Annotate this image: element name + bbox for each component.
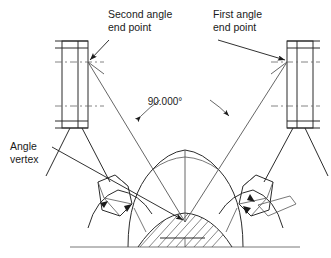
angle-vertex-label-line1: Angle <box>10 140 37 152</box>
angle-leg-left <box>88 62 185 222</box>
section-hatching <box>130 205 250 258</box>
end-point-markers <box>88 62 287 74</box>
second-angle-end-point-leader <box>90 40 109 60</box>
first-angle-end-point-label-line2: end point <box>213 21 256 33</box>
first-angle-end-point-leader <box>218 40 285 60</box>
second-angle-end-point-label-line1: Second angle <box>108 8 172 20</box>
angle-measurement-diagram: 90.000° Second angle end point First ang… <box>0 0 331 258</box>
center-hatched-section <box>130 205 250 258</box>
angle-legs <box>88 62 287 222</box>
angle-arc-right <box>210 100 229 116</box>
angle-vertex-leader <box>52 147 183 220</box>
first-angle-end-point-label-line1: First angle <box>213 8 262 20</box>
angle-dimension: 90.000° <box>141 96 229 116</box>
right-end-point-marker <box>271 62 287 74</box>
diagram-canvas: 90.000° Second angle end point First ang… <box>0 0 331 258</box>
angle-vertex-label-line2: vertex <box>10 153 39 165</box>
right-tooth-contact-marker-a <box>247 194 255 202</box>
left-end-point-marker <box>88 62 104 74</box>
second-angle-end-point-label-line2: end point <box>108 21 151 33</box>
annotation-second-angle-end-point: Second angle end point <box>90 8 172 60</box>
right-bracket <box>264 41 328 182</box>
right-gear-tooth <box>219 175 296 232</box>
angle-dimension-value: 90.000° <box>148 96 183 107</box>
annotation-first-angle-end-point: First angle end point <box>213 8 285 60</box>
right-tooth-contact-marker-b <box>243 206 251 214</box>
left-bracket <box>46 41 110 182</box>
